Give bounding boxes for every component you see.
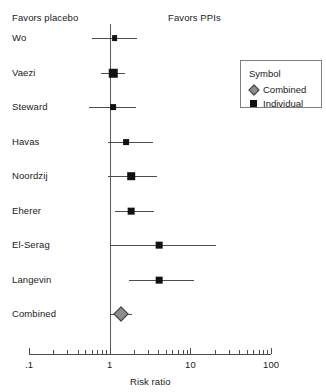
axis-tick [239, 350, 240, 354]
axis-tick [215, 350, 216, 354]
point-estimate-marker [128, 208, 135, 215]
axis-tick [229, 350, 230, 354]
study-label: Eherer [12, 205, 41, 216]
confidence-interval-line [108, 142, 153, 143]
legend-item-label: Individual [263, 98, 303, 109]
axis-tick [78, 350, 79, 354]
favors-placebo-label: Favors placebo [12, 12, 78, 23]
point-estimate-marker [123, 139, 129, 145]
legend-box: Symbol CombinedIndividual [240, 60, 322, 108]
point-estimate-marker [110, 104, 116, 110]
axis-tick [263, 350, 264, 354]
axis-tick [53, 350, 54, 354]
axis-tick [267, 350, 268, 354]
axis-tick-label: 1 [107, 359, 112, 370]
x-axis-line [29, 354, 271, 355]
legend-diamond-icon [248, 84, 259, 95]
legend-item-label: Combined [263, 84, 306, 95]
axis-tick-label: .1 [25, 359, 33, 370]
axis-tick [110, 348, 111, 354]
axis-tick [102, 350, 103, 354]
axis-tick [29, 348, 30, 354]
pooled-estimate-diamond [114, 306, 130, 322]
axis-tick [271, 348, 272, 354]
study-label: Noordzij [12, 170, 48, 181]
axis-tick [253, 350, 254, 354]
study-label: Havas [12, 136, 39, 147]
legend-title: Symbol [249, 68, 281, 79]
axis-tick [67, 350, 68, 354]
study-label: Langevin [12, 274, 51, 285]
study-label: El-Serag [12, 239, 50, 250]
legend-square-icon [250, 100, 257, 107]
axis-tick-label: 100 [263, 359, 279, 370]
axis-tick [190, 348, 191, 354]
axis-tick [97, 350, 98, 354]
study-label: Combined [12, 308, 56, 319]
axis-tick [172, 350, 173, 354]
point-estimate-marker [112, 35, 118, 41]
axis-tick-label: 10 [185, 359, 196, 370]
axis-tick [178, 350, 179, 354]
confidence-interval-line [110, 245, 216, 246]
axis-tick [183, 350, 184, 354]
point-estimate-marker [156, 242, 163, 249]
axis-tick [106, 350, 107, 354]
forest-plot: Favors placebo Favors PPIs WoVaeziStewar… [0, 0, 326, 392]
axis-tick [259, 350, 260, 354]
axis-tick [134, 350, 135, 354]
axis-tick [85, 350, 86, 354]
study-label: Wo [12, 32, 26, 43]
axis-tick [247, 350, 248, 354]
axis-tick [92, 350, 93, 354]
favors-ppis-label: Favors PPIs [168, 12, 221, 23]
study-label: Steward [12, 101, 48, 112]
x-axis-title: Risk ratio [130, 376, 171, 387]
axis-tick [148, 350, 149, 354]
axis-tick [187, 350, 188, 354]
axis-tick [158, 350, 159, 354]
study-label: Vaezi [12, 67, 36, 78]
point-estimate-marker [156, 277, 163, 284]
point-estimate-marker [109, 69, 118, 78]
point-estimate-marker [127, 172, 135, 180]
axis-tick [166, 350, 167, 354]
